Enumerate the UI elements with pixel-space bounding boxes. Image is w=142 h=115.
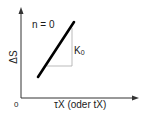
y-axis-arrow-icon (19, 7, 24, 14)
slope-label: K0 (74, 46, 85, 56)
slope-triangle (47, 28, 72, 66)
x-axis-arrow-icon (132, 96, 139, 101)
slope-label-base: K (74, 45, 81, 56)
linear-line (38, 22, 74, 77)
diagram-canvas (0, 0, 142, 115)
y-axis (19, 7, 24, 98)
x-axis-label: τX (oder tX) (54, 100, 106, 110)
line-label: n = 0 (32, 20, 55, 30)
origin-label: 0 (14, 101, 18, 109)
y-axis-label: ΔS (9, 50, 19, 63)
slope-label-subscript: 0 (81, 49, 85, 56)
